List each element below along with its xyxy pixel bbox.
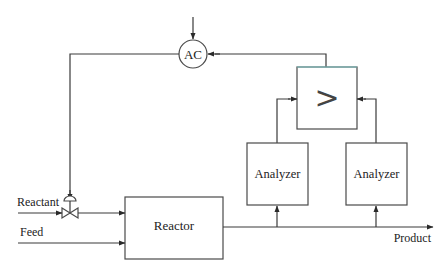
analyzer-1: Analyzer <box>247 143 308 205</box>
high-selector: > <box>297 67 357 129</box>
controller-output-line <box>70 54 179 200</box>
analyzer2-to-selector-line <box>357 99 376 143</box>
product-label: Product <box>394 231 432 245</box>
selector-output-line <box>208 54 326 67</box>
reactor: Reactor <box>125 197 223 259</box>
greater-than-icon: > <box>314 80 339 115</box>
reactant-label: Reactant <box>17 195 60 209</box>
reactor-label: Reactor <box>154 218 195 233</box>
analyzer-controller: AC <box>179 40 207 68</box>
analyzer1-to-selector-line <box>277 99 297 143</box>
analyzer-1-label: Analyzer <box>255 167 302 181</box>
analyzer-2-label: Analyzer <box>354 167 401 181</box>
controller-label: AC <box>184 47 202 62</box>
product-stream: Product <box>223 227 433 245</box>
feed-stream: Feed <box>18 225 125 243</box>
process-diagram: AC > Analyzer Analyzer Reactor <box>0 0 448 272</box>
control-valve-icon <box>62 196 78 218</box>
feed-label: Feed <box>20 225 43 239</box>
analyzer-2: Analyzer <box>346 143 407 205</box>
